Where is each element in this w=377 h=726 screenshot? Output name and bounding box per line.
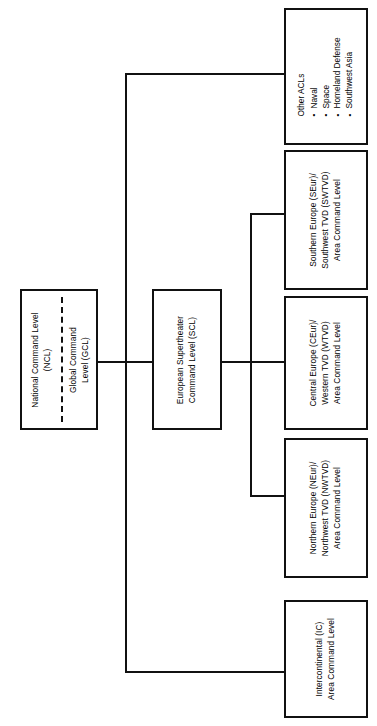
node-central-europe-area-command-level[interactable]: Central Europe (CEur)/ Western TVD (WTVD… <box>284 296 368 430</box>
node-northern-europe-area-command-level[interactable]: Northern Europe (NEur)/ Northwest TVD (N… <box>284 438 368 578</box>
other-acls-list: Other ACLs Naval Space Homeland Defense … <box>296 37 356 116</box>
connector-bus-inner <box>250 213 252 497</box>
other-acls-heading: Other ACLs <box>296 37 308 116</box>
label-line: Area Command Level <box>332 319 344 406</box>
node-european-supertheater-command-level[interactable]: European Supertheater Command Level (SCL… <box>152 289 222 430</box>
label-line: European Supertheater <box>175 315 187 403</box>
label-line: (NCL) <box>42 312 54 407</box>
label-line: Central Europe (CEur)/ <box>308 319 320 406</box>
node-intercontinental-area-command-level[interactable]: Intercontinental (IC) Area Command Level <box>284 600 368 718</box>
label-line: Southwest TVD (SWTVD) <box>320 171 332 268</box>
label-line: Southern Europe (SEur)/ <box>308 171 320 268</box>
dashed-divider <box>61 297 63 422</box>
label-line: Level (GCL) <box>80 327 92 393</box>
list-item: Space <box>321 37 333 116</box>
node-label-central-europe: Central Europe (CEur)/ Western TVD (WTVD… <box>308 319 343 406</box>
label-line: Area Command Level <box>332 171 344 268</box>
diagram-canvas: National Command Level (NCL) Global Comm… <box>0 0 377 726</box>
label-line: Intercontinental (IC) <box>314 618 326 700</box>
node-label-southern-europe: Southern Europe (SEur)/ Southwest TVD (S… <box>308 171 343 268</box>
label-line: Northern Europe (NEur)/ <box>308 460 320 556</box>
connector-bus-to-other-acls <box>125 73 284 75</box>
connector-bus-to-northern-europe <box>250 495 284 497</box>
label-line: Western TVD (WTVD) <box>320 319 332 406</box>
node-label-northern-europe: Northern Europe (NEur)/ Northwest TVD (N… <box>308 460 343 556</box>
label-line: Command Level (SCL) <box>187 315 199 403</box>
label-line: Global Command <box>68 327 80 393</box>
connector-bus-to-southern-europe <box>250 213 284 215</box>
connector-bus-to-central-europe <box>250 361 284 363</box>
node-label-intercontinental: Intercontinental (IC) Area Command Level <box>314 618 338 700</box>
connector-scl-to-bus-inner <box>221 361 252 363</box>
node-southern-europe-area-command-level[interactable]: Southern Europe (SEur)/ Southwest TVD (S… <box>284 150 368 290</box>
connector-bus-outer <box>125 73 127 673</box>
node-label-global-command-level: Global Command Level (GCL) <box>68 327 92 393</box>
list-item: Naval <box>309 37 321 116</box>
label-line: Area Command Level <box>332 460 344 556</box>
node-other-acls[interactable]: Other ACLs Naval Space Homeland Defense … <box>284 8 368 145</box>
label-line: National Command Level <box>30 312 42 407</box>
node-label-national-command-level: National Command Level (NCL) <box>30 312 54 407</box>
node-national-and-global-command-level[interactable]: National Command Level (NCL) Global Comm… <box>20 289 98 430</box>
label-line: Area Command Level <box>326 618 338 700</box>
node-label-european-supertheater-command-level: European Supertheater Command Level (SCL… <box>175 315 199 403</box>
list-item: Southwest Asia <box>344 37 356 116</box>
list-item: Homeland Defense <box>332 37 344 116</box>
label-line: Northwest TVD (NWTVD) <box>320 460 332 556</box>
connector-bus-to-intercontinental <box>125 671 284 673</box>
